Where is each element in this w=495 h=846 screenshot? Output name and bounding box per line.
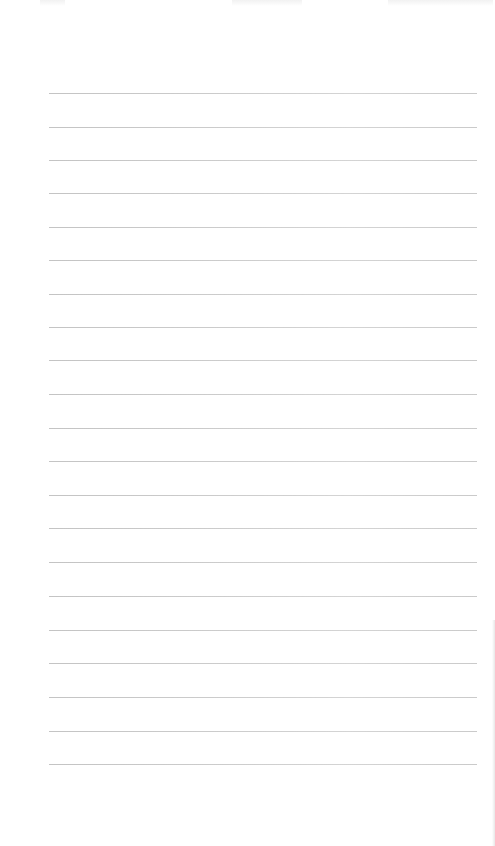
ruled-line xyxy=(49,93,477,94)
ruled-line xyxy=(49,227,477,228)
ruled-line xyxy=(49,127,477,128)
ruled-line xyxy=(49,193,477,194)
ruled-line xyxy=(49,528,477,529)
lined-paper-page xyxy=(0,0,495,846)
ruled-line xyxy=(49,495,477,496)
ruled-line xyxy=(49,294,477,295)
ruled-line xyxy=(49,697,477,698)
ruled-line xyxy=(49,327,477,328)
bleed-through-mark xyxy=(388,0,493,6)
ruled-line xyxy=(49,731,477,732)
ruled-line xyxy=(49,428,477,429)
ruled-line xyxy=(49,461,477,462)
ruled-line xyxy=(49,663,477,664)
ruled-line xyxy=(49,562,477,563)
ruled-line xyxy=(49,630,477,631)
ruled-line xyxy=(49,260,477,261)
ruled-line xyxy=(49,596,477,597)
ruled-line xyxy=(49,160,477,161)
ruled-line xyxy=(49,764,477,765)
ruled-line xyxy=(49,360,477,361)
bleed-through-mark xyxy=(40,0,65,6)
ruled-line xyxy=(49,394,477,395)
bleed-through-mark xyxy=(232,0,302,6)
